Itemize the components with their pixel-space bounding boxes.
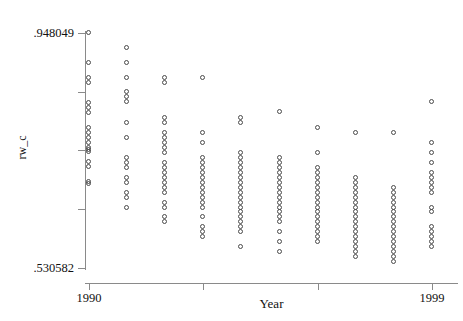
data-point bbox=[429, 244, 434, 249]
data-point bbox=[86, 60, 91, 65]
data-point bbox=[353, 190, 358, 195]
data-point bbox=[429, 140, 434, 145]
data-point bbox=[124, 120, 129, 125]
data-point bbox=[315, 125, 320, 130]
data-point bbox=[315, 190, 320, 195]
data-point bbox=[277, 200, 282, 205]
data-point bbox=[429, 99, 434, 104]
data-point bbox=[429, 160, 434, 165]
data-point bbox=[277, 109, 282, 114]
data-point bbox=[277, 249, 282, 254]
data-point bbox=[124, 45, 129, 50]
data-point bbox=[353, 185, 358, 190]
data-point bbox=[162, 219, 167, 224]
data-point bbox=[200, 200, 205, 205]
data-point bbox=[353, 254, 358, 259]
data-point bbox=[86, 30, 91, 35]
data-point bbox=[200, 140, 205, 145]
data-point bbox=[124, 99, 129, 104]
data-point bbox=[200, 234, 205, 239]
data-point bbox=[277, 195, 282, 200]
data-point bbox=[238, 185, 243, 190]
data-point bbox=[391, 259, 396, 264]
data-point bbox=[200, 205, 205, 210]
data-point bbox=[124, 60, 129, 65]
data-point bbox=[391, 190, 396, 195]
data-point bbox=[238, 190, 243, 195]
data-point bbox=[353, 200, 358, 205]
data-point bbox=[162, 205, 167, 210]
data-point bbox=[200, 190, 205, 195]
data-point bbox=[277, 190, 282, 195]
data-point bbox=[162, 80, 167, 85]
data-point bbox=[162, 150, 167, 155]
data-point bbox=[353, 130, 358, 135]
data-point bbox=[162, 200, 167, 205]
data-point bbox=[353, 195, 358, 200]
data-points-layer bbox=[0, 0, 463, 321]
data-point bbox=[391, 200, 396, 205]
data-point bbox=[200, 214, 205, 219]
data-point bbox=[124, 165, 129, 170]
data-point bbox=[315, 195, 320, 200]
data-point bbox=[162, 120, 167, 125]
data-point bbox=[238, 180, 243, 185]
data-point bbox=[391, 130, 396, 135]
data-point bbox=[162, 75, 167, 80]
data-point bbox=[124, 135, 129, 140]
data-point bbox=[86, 80, 91, 85]
data-point bbox=[200, 185, 205, 190]
data-point bbox=[238, 195, 243, 200]
data-point bbox=[86, 75, 91, 80]
data-point bbox=[124, 180, 129, 185]
data-point bbox=[391, 185, 396, 190]
data-point bbox=[200, 130, 205, 135]
data-point bbox=[238, 200, 243, 205]
data-point bbox=[238, 244, 243, 249]
data-point bbox=[315, 200, 320, 205]
data-point bbox=[200, 195, 205, 200]
data-point bbox=[124, 190, 129, 195]
data-point bbox=[277, 239, 282, 244]
data-point bbox=[391, 195, 396, 200]
data-point bbox=[315, 239, 320, 244]
data-point bbox=[277, 219, 282, 224]
data-point bbox=[277, 229, 282, 234]
data-point bbox=[315, 150, 320, 155]
data-point bbox=[86, 105, 91, 110]
data-point bbox=[162, 180, 167, 185]
data-point bbox=[238, 120, 243, 125]
data-point bbox=[238, 229, 243, 234]
data-point bbox=[86, 164, 91, 169]
data-point bbox=[124, 205, 129, 210]
data-point bbox=[162, 190, 167, 195]
data-point bbox=[200, 180, 205, 185]
scatter-plot-figure: .948049 .530582 1990 1999 rw_c Year bbox=[0, 0, 463, 321]
data-point bbox=[162, 185, 167, 190]
data-point bbox=[200, 75, 205, 80]
data-point bbox=[429, 150, 434, 155]
data-point bbox=[124, 75, 129, 80]
data-point bbox=[277, 185, 282, 190]
data-point bbox=[124, 195, 129, 200]
data-point bbox=[315, 185, 320, 190]
data-point bbox=[429, 185, 434, 190]
data-point bbox=[86, 149, 91, 154]
data-point bbox=[86, 110, 91, 115]
data-point bbox=[429, 209, 434, 214]
data-point bbox=[86, 181, 91, 186]
data-point bbox=[429, 190, 434, 195]
